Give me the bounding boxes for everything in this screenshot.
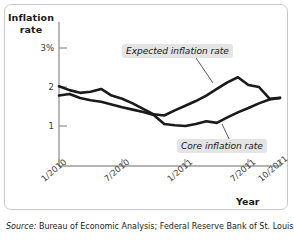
source-note: Source: Bureau of Economic Analysis; Fed…: [6, 222, 294, 231]
leader-line-expected: [196, 58, 213, 83]
x-axis-title: Year: [236, 196, 260, 207]
series-annotation-core-inflation-rate: Core inflation rate: [177, 139, 267, 153]
inflation-rate-chart-figure: Inflation rate 3% 2 1 1/2010 7/20: [0, 0, 294, 242]
source-note-lead: Source:: [6, 222, 36, 231]
annotation-leader-lines: [196, 58, 232, 145]
series-annotation-expected-inflation-rate: Expected inflation rate: [122, 44, 233, 58]
y-tick-label-3: 3%: [32, 43, 54, 53]
data-series-lines: [59, 77, 280, 126]
series-line-core-inflation-rate: [59, 94, 280, 126]
source-note-text: Bureau of Economic Analysis; Federal Res…: [36, 222, 294, 231]
y-tick-label-1: 1: [32, 121, 54, 131]
y-tick-label-2: 2: [32, 82, 54, 92]
